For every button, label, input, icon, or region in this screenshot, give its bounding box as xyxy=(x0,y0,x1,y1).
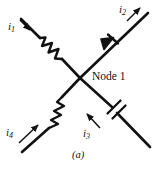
current-label-i1: i1 xyxy=(8,21,15,34)
current-arrow-i3 xyxy=(87,114,100,128)
resistor-r1-icon xyxy=(40,38,62,60)
wire-bottom-left-inner xyxy=(62,78,80,97)
branch-top-right xyxy=(80,13,148,78)
current-label-i3: i3 xyxy=(83,128,90,141)
node-label: Node 1 xyxy=(92,71,126,83)
circuit-diagram-svg xyxy=(0,0,163,169)
current-arrow-i2 xyxy=(127,8,140,21)
current-label-i4: i4 xyxy=(6,127,13,140)
resistor-r2-icon xyxy=(49,97,64,128)
branch-top-left xyxy=(21,19,80,78)
circuit-figure: i1 i2 i3 i4 Node 1 (a) xyxy=(0,0,163,169)
branch-bottom-right xyxy=(80,78,150,147)
wire-bottom-right-outer xyxy=(117,113,150,147)
wire-top-right xyxy=(80,13,148,78)
wire-top-left-inner xyxy=(62,59,80,78)
wire-top-left-outer xyxy=(21,19,40,38)
wire-bottom-left-outer xyxy=(22,128,49,152)
current-label-i2: i2 xyxy=(119,4,126,17)
branch-bottom-left xyxy=(22,78,80,152)
figure-caption: (a) xyxy=(72,150,84,161)
